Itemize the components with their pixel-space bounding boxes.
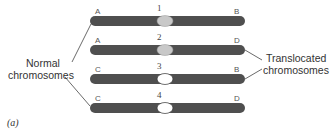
translocated-leader-line-1 [245,50,262,60]
chromosome-3: 3 C B [90,61,245,85]
chromosome-number: 4 [157,90,162,100]
centromere-white [157,103,173,114]
chromosome-diagram: 1 A B 2 A D 3 C B 4 C D Normal chromosom… [0,0,331,131]
right-segment-label: B [234,7,239,16]
centromere-gray [157,16,173,27]
svg-text:chromosomes: chromosomes [263,64,329,76]
left-segment-label: A [95,7,101,16]
chromosome-number: 2 [157,32,162,42]
normal-leader-line-1 [72,24,91,62]
translocated-leader-line-2 [245,69,262,79]
svg-text:Translocated: Translocated [266,52,326,64]
left-segment-label: C [95,65,101,74]
translocated-chromosomes-label: Translocated chromosomes [263,52,329,76]
chromosome-number: 1 [157,3,162,13]
svg-text:chromosomes: chromosomes [8,69,74,81]
right-segment-label: B [234,65,239,74]
centromere-gray [157,45,173,56]
chromosome-1: 1 A B [90,3,245,27]
chromosome-number: 3 [157,61,162,71]
chromosome-2: 2 A D [90,32,245,56]
normal-leader-line-2 [65,77,90,106]
centromere-white [157,74,173,85]
normal-chromosomes-label: Normal chromosomes [8,57,74,81]
left-segment-label: C [95,94,101,103]
chromosome-4: 4 C D [90,90,245,114]
right-segment-label: D [234,36,240,45]
left-segment-label: A [95,36,101,45]
svg-text:Normal: Normal [26,57,60,69]
right-segment-label: D [234,94,240,103]
panel-caption: (a) [7,117,19,129]
